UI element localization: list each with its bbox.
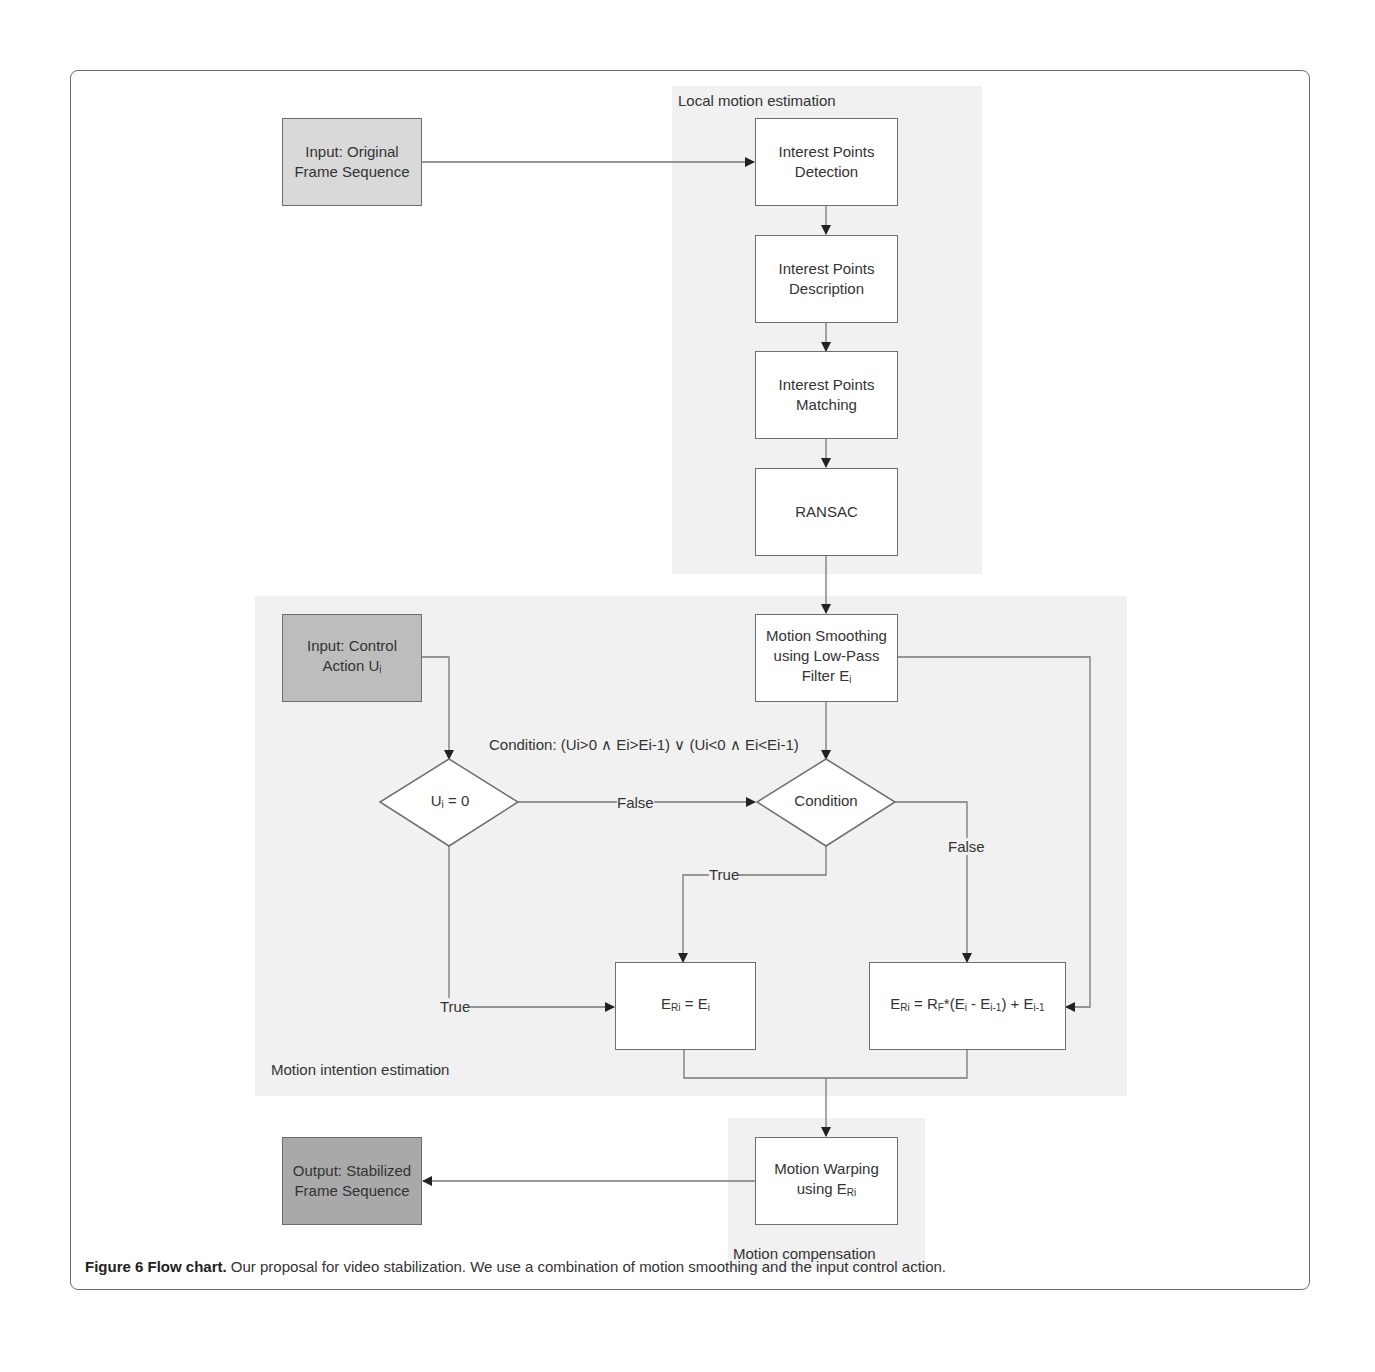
condition-expression: Condition: (Ui>0 ∧ Ei>Ei-1) ∨ (Ui<0 ∧ Ei…	[489, 736, 799, 754]
decision-condition: Condition	[776, 792, 876, 809]
output-stabilized-frame-sequence: Output: StabilizedFrame Sequence	[282, 1137, 422, 1225]
input-control-action: Input: Control Action Ui	[282, 614, 422, 702]
interest-points-description: Interest PointsDescription	[755, 235, 898, 323]
eri-formula: ERi = RF*(Ei - Ei-1) + Ei-1	[869, 962, 1066, 1050]
ransac: RANSAC	[755, 468, 898, 556]
interest-points-detection: Interest PointsDetection	[755, 118, 898, 206]
motion-warping: Motion Warping using ERi	[755, 1137, 898, 1225]
edge-label-false-right: False	[948, 838, 985, 855]
edge-label-true-cond: True	[709, 866, 739, 883]
edge-label-true-left: True	[440, 998, 470, 1015]
decision-ui-zero: Ui = 0	[400, 792, 500, 810]
eri-equals-ei: ERi = Ei	[615, 962, 756, 1050]
edge-label-false-mid: False	[617, 794, 654, 811]
input-original-frame-sequence: Input: OriginalFrame Sequence	[282, 118, 422, 206]
interest-points-matching: Interest PointsMatching	[755, 351, 898, 439]
connector-lines	[0, 0, 1375, 1372]
figure-caption: Figure 6 Flow chart. Our proposal for vi…	[85, 1258, 946, 1275]
motion-smoothing-low-pass: Motion Smoothing using Low-Pass Filter E…	[755, 614, 898, 702]
